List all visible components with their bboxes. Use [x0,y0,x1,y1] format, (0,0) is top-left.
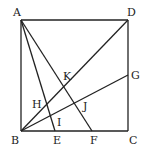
label-J: J [82,100,87,113]
label-I: I [57,116,61,129]
segment-BD [21,20,128,131]
label-G: G [131,69,140,82]
segment-AE [21,20,55,131]
geometry-diagram: A B C D E F G H I J K [0,0,148,153]
label-C: C [129,134,137,147]
label-E: E [53,134,61,147]
label-B: B [11,134,19,147]
segment-AF [21,20,92,131]
segments [21,20,128,131]
label-K: K [63,70,72,83]
label-H: H [32,98,42,111]
label-A: A [12,6,22,19]
label-D: D [127,6,136,19]
label-F: F [90,134,98,147]
